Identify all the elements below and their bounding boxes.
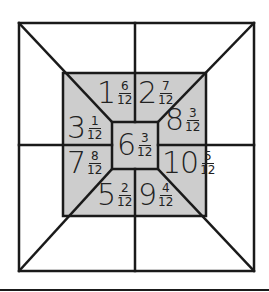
whole-part: 2: [138, 78, 156, 108]
fraction: 812: [87, 150, 102, 177]
mixed-number-right-upper: 8312: [165, 105, 200, 135]
denominator: 12: [158, 196, 173, 209]
numerator: 7: [160, 80, 172, 94]
denominator: 12: [200, 164, 215, 177]
denominator: 12: [117, 94, 132, 107]
numerator: 1: [89, 115, 101, 129]
whole-part: 9: [138, 180, 156, 210]
mixed-number-left-upper: 3112: [67, 113, 102, 143]
fraction: 312: [137, 132, 152, 159]
whole-part: 10: [162, 148, 198, 178]
fraction: 112: [87, 115, 102, 142]
denominator: 12: [87, 164, 102, 177]
mixed-number-center: 6312: [117, 130, 152, 160]
numerator: 8: [89, 150, 101, 164]
whole-part: 7: [67, 148, 85, 178]
mixed-number-right-lower: 10512: [162, 148, 215, 178]
numerator: 6: [119, 80, 131, 94]
numerator: 3: [139, 132, 151, 146]
numerator: 3: [187, 107, 199, 121]
denominator: 12: [137, 146, 152, 159]
whole-part: 5: [97, 180, 115, 210]
fraction: 612: [117, 80, 132, 107]
mixed-number-left-lower: 7812: [67, 148, 102, 178]
whole-part: 1: [97, 78, 115, 108]
fraction: 412: [158, 182, 173, 209]
fraction: 212: [117, 182, 132, 209]
mixed-number-bottom-right: 9412: [138, 180, 173, 210]
denominator: 12: [87, 129, 102, 142]
whole-part: 3: [67, 113, 85, 143]
fraction: 512: [200, 150, 215, 177]
numerator: 2: [119, 182, 131, 196]
numerator: 5: [202, 150, 214, 164]
whole-part: 8: [165, 105, 183, 135]
mixed-number-top-left: 1612: [97, 78, 132, 108]
numerator: 4: [160, 182, 172, 196]
fraction: 312: [185, 107, 200, 134]
denominator: 12: [185, 121, 200, 134]
mixed-number-bottom-left: 5212: [97, 180, 132, 210]
whole-part: 6: [117, 130, 135, 160]
denominator: 12: [117, 196, 132, 209]
